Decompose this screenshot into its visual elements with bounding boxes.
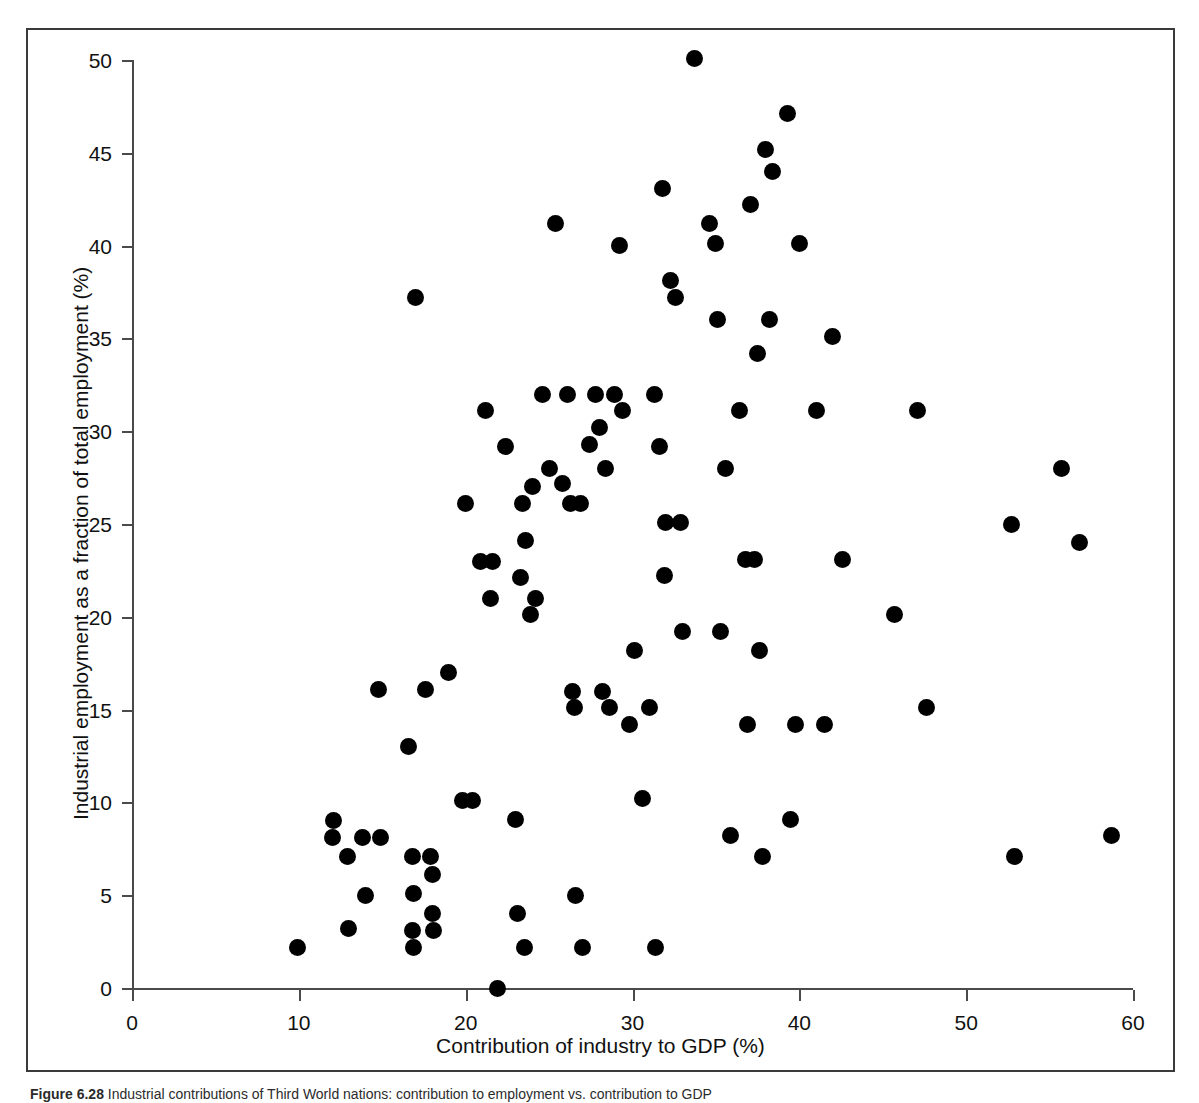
y-axis-tick xyxy=(122,431,132,433)
scatter-point xyxy=(372,829,389,846)
scatter-plot-area: 051015202530354045500102030405060 xyxy=(28,30,1173,1070)
scatter-point xyxy=(527,590,544,607)
scatter-point xyxy=(749,345,766,362)
y-axis-tick-label: 0 xyxy=(58,978,112,999)
scatter-point xyxy=(754,848,771,865)
scatter-point xyxy=(621,716,638,733)
scatter-point xyxy=(701,215,718,232)
figure-caption-label: Figure 6.28 xyxy=(30,1086,104,1102)
scatter-point xyxy=(564,683,581,700)
x-axis-tick-label: 10 xyxy=(269,1012,329,1033)
scatter-point xyxy=(601,699,618,716)
x-axis-tick-label: 0 xyxy=(102,1012,162,1033)
y-axis-tick xyxy=(122,710,132,712)
scatter-point xyxy=(1103,827,1120,844)
x-axis-tick xyxy=(466,990,468,1001)
scatter-point xyxy=(405,885,422,902)
x-axis-tick xyxy=(633,990,635,1001)
scatter-point xyxy=(541,460,558,477)
scatter-point xyxy=(651,438,668,455)
scatter-point xyxy=(567,887,584,904)
y-axis-tick xyxy=(122,617,132,619)
y-axis-line xyxy=(132,60,134,988)
scatter-point xyxy=(489,980,506,997)
scatter-point xyxy=(404,848,421,865)
scatter-point xyxy=(440,664,457,681)
x-axis-tick xyxy=(966,990,968,1001)
y-axis-tick-label: 40 xyxy=(58,236,112,257)
scatter-point xyxy=(707,235,724,252)
scatter-point xyxy=(686,50,703,67)
y-axis-tick xyxy=(122,246,132,248)
scatter-point xyxy=(405,939,422,956)
x-axis-tick xyxy=(1133,990,1135,1001)
scatter-point xyxy=(517,532,534,549)
x-axis-tick-label: 30 xyxy=(603,1012,663,1033)
scatter-point xyxy=(824,328,841,345)
scatter-point xyxy=(672,514,689,531)
scatter-point xyxy=(464,792,481,809)
scatter-point xyxy=(516,939,533,956)
scatter-point xyxy=(477,402,494,419)
y-axis-tick-label: 50 xyxy=(58,50,112,71)
x-axis-tick xyxy=(132,990,134,1001)
scatter-point xyxy=(340,920,357,937)
scatter-point xyxy=(547,215,564,232)
scatter-point xyxy=(886,606,903,623)
scatter-point xyxy=(746,551,763,568)
scatter-point xyxy=(656,567,673,584)
scatter-point xyxy=(626,642,643,659)
scatter-point xyxy=(611,237,628,254)
scatter-point xyxy=(457,495,474,512)
scatter-point xyxy=(597,460,614,477)
scatter-point xyxy=(606,386,623,403)
scatter-point xyxy=(507,811,524,828)
scatter-point xyxy=(779,105,796,122)
scatter-point xyxy=(717,460,734,477)
x-axis-tick-label: 20 xyxy=(436,1012,496,1033)
scatter-point xyxy=(522,606,539,623)
scatter-point xyxy=(354,829,371,846)
scatter-point xyxy=(482,590,499,607)
scatter-point xyxy=(918,699,935,716)
scatter-point xyxy=(422,848,439,865)
figure-caption-text: Industrial contributions of Third World … xyxy=(108,1086,712,1102)
scatter-point xyxy=(512,569,529,586)
y-axis-tick xyxy=(122,338,132,340)
x-axis-tick-label: 60 xyxy=(1103,1012,1163,1033)
scatter-point xyxy=(764,163,781,180)
scatter-point xyxy=(407,289,424,306)
scatter-point xyxy=(404,922,421,939)
scatter-point xyxy=(509,905,526,922)
scatter-point xyxy=(808,402,825,419)
scatter-point xyxy=(757,141,774,158)
scatter-point xyxy=(417,681,434,698)
x-axis-tick xyxy=(299,990,301,1001)
scatter-point xyxy=(339,848,356,865)
x-axis-tick-label: 50 xyxy=(936,1012,996,1033)
y-axis-tick xyxy=(122,524,132,526)
y-axis-tick xyxy=(122,60,132,62)
scatter-point xyxy=(325,812,342,829)
scatter-point xyxy=(761,311,778,328)
scatter-point xyxy=(424,866,441,883)
scatter-point xyxy=(514,495,531,512)
scatter-point xyxy=(667,289,684,306)
scatter-point xyxy=(572,495,589,512)
scatter-point xyxy=(400,738,417,755)
scatter-point xyxy=(559,386,576,403)
x-axis-tick-label: 40 xyxy=(769,1012,829,1033)
x-axis-tick xyxy=(799,990,801,1001)
scatter-point xyxy=(709,311,726,328)
scatter-point xyxy=(534,386,551,403)
scatter-point xyxy=(834,551,851,568)
y-axis-title: Industrial employment as a fraction of t… xyxy=(70,267,91,820)
scatter-point xyxy=(654,180,671,197)
scatter-point xyxy=(674,623,691,640)
scatter-point xyxy=(662,272,679,289)
scatter-point xyxy=(712,623,729,640)
y-axis-tick-label: 45 xyxy=(58,143,112,164)
scatter-point xyxy=(581,436,598,453)
scatter-point xyxy=(647,939,664,956)
y-axis-tick xyxy=(122,802,132,804)
